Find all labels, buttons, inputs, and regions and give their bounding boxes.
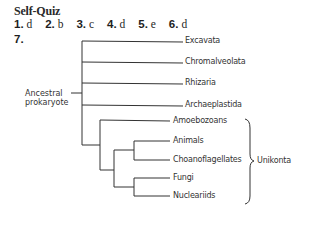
group-label-unikonta: Unikonta <box>257 156 291 165</box>
taxon-archaeplastida: Archaeplastida <box>185 100 242 109</box>
taxon-chromalveolata: Chromalveolata <box>185 57 246 66</box>
taxon-amoebozoans: Amoebozoans <box>173 116 227 125</box>
taxon-rhizaria: Rhizaria <box>185 78 216 87</box>
taxon-excavata: Excavata <box>185 36 220 45</box>
root-label: Ancestral prokaryote <box>25 89 68 107</box>
taxon-nucleariids: Nucleariids <box>173 191 215 200</box>
taxon-animals: Animals <box>173 136 203 145</box>
taxon-fungi: Fungi <box>173 173 194 182</box>
taxon-choanoflagellates: Choanoflagellates <box>173 155 242 164</box>
